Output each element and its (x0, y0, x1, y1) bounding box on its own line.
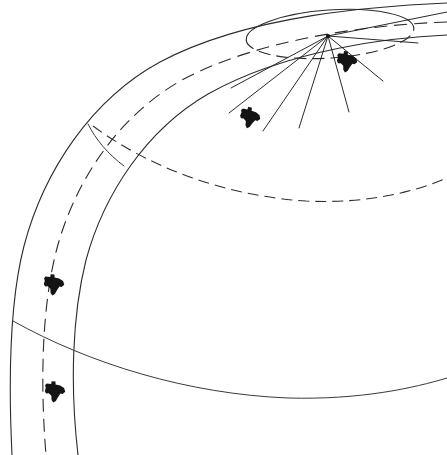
texas-marker-lower-band (42, 274, 65, 297)
ray-2 (229, 36, 328, 113)
texas-marker-mid-left (237, 105, 262, 130)
radial-ray-group (229, 12, 447, 131)
ray-8-upper (328, 12, 447, 36)
figure-canvas: Curved track band diagram with radial se… (0, 0, 447, 455)
mid-sweep-dashed-arc (93, 126, 447, 201)
ray-4 (299, 36, 328, 128)
ray-5 (328, 36, 349, 112)
radial-origin-dot (326, 34, 330, 38)
diagram-svg (0, 0, 447, 455)
lower-sweep-solid-arc (13, 321, 447, 398)
band-cross-tick (88, 124, 124, 166)
outer-band-arc (10, 3, 447, 455)
arc-group (10, 3, 447, 455)
ray-3 (263, 36, 328, 131)
texas-marker-upper-right (335, 50, 359, 74)
middle-band-arc (43, 22, 447, 455)
texas-marker-bottom-band (43, 381, 66, 404)
inner-band-arc (73, 35, 447, 455)
marker-group (42, 50, 358, 403)
